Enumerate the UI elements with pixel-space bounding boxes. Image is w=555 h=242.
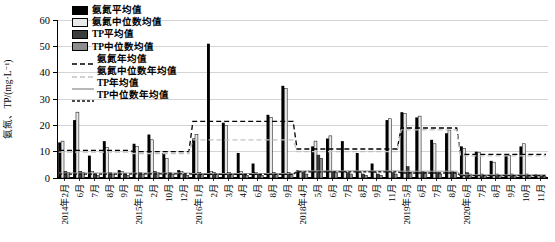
- bar: [73, 120, 76, 178]
- legend-item: TP中位数均值: [72, 41, 177, 53]
- x-tick-label: 5月: [313, 184, 323, 198]
- x-tick-label: 11月: [536, 184, 546, 202]
- bar: [195, 135, 198, 178]
- legend-item: TP平均值: [72, 28, 177, 40]
- bar: [225, 125, 228, 178]
- bar: [374, 173, 377, 178]
- bar: [543, 177, 546, 178]
- bar: [320, 158, 323, 178]
- bar: [207, 44, 210, 178]
- x-tick-label: 2016年1月: [193, 184, 204, 225]
- legend-item: 氨氮中位数均值: [72, 16, 177, 28]
- bar: [147, 135, 150, 178]
- x-tick-label: 9月: [119, 184, 129, 198]
- legend-item: TP中位数年均值: [72, 89, 177, 101]
- legend-swatch-box: [72, 30, 88, 39]
- bar: [403, 113, 406, 178]
- x-tick-label: 7月: [432, 184, 442, 198]
- x-tick-label: 7月: [343, 184, 353, 198]
- bar: [391, 173, 394, 178]
- legend-label: 氨氮平均值: [92, 5, 142, 15]
- x-tick-label: 6月: [75, 184, 85, 198]
- bar: [269, 117, 272, 178]
- legend-swatch-line: [72, 54, 94, 63]
- bar: [350, 174, 353, 178]
- x-tick-label: 2019年5月: [401, 184, 412, 225]
- x-tick-label: 2020年6月: [461, 184, 472, 225]
- bar: [281, 86, 284, 178]
- bar: [61, 141, 64, 178]
- y-tick-label: 20: [40, 120, 51, 131]
- x-tick-label: 3月: [224, 184, 234, 198]
- legend-swatch-box: [72, 42, 88, 51]
- legend-item: 氨氮平均值: [72, 4, 177, 16]
- y-tick-label: 40: [40, 67, 51, 78]
- figure: 01020304050602014年2月6月7月8月9月2015年1月2月10月…: [0, 0, 555, 242]
- legend-item: TP年均值: [72, 77, 177, 89]
- bar: [245, 175, 248, 178]
- y-tick-label: 0: [45, 173, 50, 184]
- x-tick-label: 8月: [358, 184, 368, 198]
- x-tick-label: 2018年4月: [297, 184, 308, 225]
- y-tick-label: 50: [40, 41, 51, 52]
- legend-label: TP中位数年均值: [97, 90, 169, 100]
- bar: [305, 174, 308, 178]
- legend-item: 氨氮年均值: [72, 53, 177, 65]
- x-tick-label: 8月: [491, 184, 501, 198]
- bar: [267, 115, 270, 178]
- x-tick-label: 12月: [179, 184, 189, 202]
- y-tick-label: 60: [40, 15, 51, 26]
- bar: [418, 116, 421, 178]
- x-tick-label: 10月: [164, 184, 174, 202]
- y-tick-label: 30: [40, 94, 51, 105]
- bar: [141, 174, 144, 178]
- bar: [192, 139, 195, 179]
- bar: [103, 141, 106, 178]
- bar: [376, 174, 379, 178]
- bar: [150, 140, 153, 178]
- bar: [165, 158, 168, 178]
- legend-label: TP中位数均值: [92, 42, 154, 52]
- legend-swatch-line: [72, 67, 94, 76]
- bar: [222, 123, 225, 178]
- bar: [400, 112, 403, 178]
- y-axis-label: 氨氮、TP/(mg·L⁻¹): [2, 59, 14, 138]
- bar: [186, 175, 189, 178]
- x-tick-label: 10月: [521, 184, 531, 202]
- legend-label: 氨氮中位数均值: [92, 17, 162, 27]
- x-tick-label: 6月: [328, 184, 338, 198]
- bar: [519, 146, 522, 178]
- x-tick-label: 7月: [90, 184, 100, 198]
- x-tick-label: 8月: [447, 184, 457, 198]
- bar: [359, 173, 362, 178]
- bar: [364, 175, 367, 178]
- x-tick-label: 9月: [506, 184, 516, 198]
- bar: [317, 155, 320, 178]
- bar: [406, 167, 409, 178]
- x-tick-label: 11月: [387, 184, 397, 202]
- bar: [97, 175, 100, 178]
- legend-label: TP年均值: [97, 78, 139, 88]
- x-tick-label: 2月: [149, 184, 159, 198]
- legend-swatch-box: [72, 18, 88, 27]
- bar: [463, 148, 466, 178]
- x-tick-label: 6月: [417, 184, 427, 198]
- x-tick-label: 8月: [268, 184, 278, 198]
- x-tick-label: 8月: [105, 184, 115, 198]
- legend-label: TP平均值: [92, 29, 134, 39]
- bar: [302, 173, 305, 178]
- bar: [347, 173, 350, 178]
- x-tick-label: 4月: [238, 184, 248, 198]
- x-tick-label: 2014年2月: [59, 184, 70, 225]
- legend-label: 氨氮年均值: [97, 54, 147, 64]
- bar: [430, 140, 433, 178]
- bar: [415, 117, 418, 178]
- legend-swatch-box: [72, 6, 88, 15]
- legend-item: 氨氮中位数年均值: [72, 65, 177, 77]
- legend-label: 氨氮中位数年均值: [97, 66, 177, 76]
- bar: [356, 153, 359, 178]
- y-tick-label: 10: [40, 146, 51, 157]
- bar: [522, 144, 525, 178]
- bar: [153, 171, 156, 178]
- bar: [335, 173, 338, 178]
